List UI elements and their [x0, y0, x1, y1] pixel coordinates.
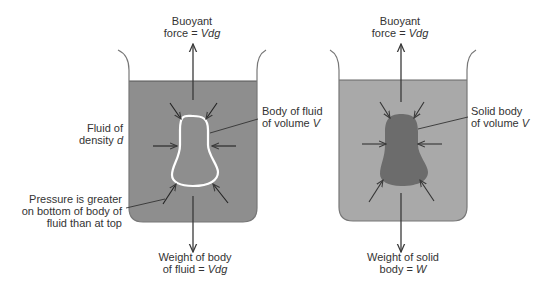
pressure-label-line2: on bottom of body of	[22, 205, 123, 217]
right-weight-label-line1: Weight of solid	[367, 251, 439, 263]
left-buoyant-label-line1: Buoyant	[172, 15, 212, 27]
pressure-label-line3: fluid than at top	[47, 217, 122, 229]
left-weight-label-line1: Weight of body	[158, 251, 232, 263]
fluid-density-label-line2: density d	[79, 134, 124, 146]
right-buoyant-label-line1: Buoyant	[380, 15, 420, 27]
right-beaker	[330, 44, 476, 252]
buoyancy-diagram: Buoyant force = Vdg Fluid of density d B…	[0, 0, 549, 285]
body-of-fluid-label-line1: Body of fluid	[262, 105, 323, 117]
left-buoyant-label-line2: force = Vdg	[164, 27, 221, 39]
left-weight-label-line2: of fluid = Vdg	[163, 263, 228, 275]
fluid-density-label-line1: Fluid of	[87, 122, 124, 134]
left-beaker	[118, 44, 266, 252]
solid-body-label-line1: Solid body	[471, 105, 523, 117]
body-of-fluid-label-line2: of volume V	[262, 117, 322, 129]
pressure-label-line1: Pressure is greater	[29, 193, 122, 205]
solid-body-label-line2: of volume V	[471, 117, 531, 129]
right-weight-label-line2: body = W	[380, 263, 428, 275]
right-buoyant-label-line2: force = Vdg	[372, 27, 429, 39]
